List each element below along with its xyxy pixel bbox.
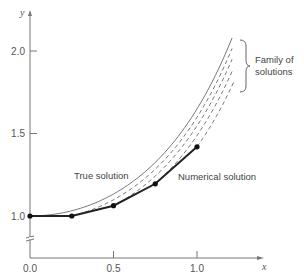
x-ticks: 0.00.51.0 bbox=[23, 251, 204, 274]
x-tick-label: 1.0 bbox=[190, 263, 204, 274]
numerical-point bbox=[111, 203, 116, 208]
axes: y x bbox=[19, 7, 267, 272]
y-axis-arrow bbox=[28, 10, 32, 16]
family-solution-curve bbox=[155, 71, 232, 183]
numerical-point bbox=[153, 181, 158, 186]
numerical-solution-label: Numerical solution bbox=[178, 171, 256, 182]
family-solution-curve bbox=[197, 82, 234, 147]
y-tick-label: 2.0 bbox=[11, 46, 25, 57]
family-solution-curve bbox=[114, 59, 233, 205]
x-axis-label: x bbox=[261, 261, 267, 272]
annotations: True solution Numerical solution Family … bbox=[74, 40, 294, 182]
family-label-line2: solutions bbox=[255, 66, 293, 77]
numerical-point bbox=[69, 213, 74, 218]
x-tick-label: 0.5 bbox=[107, 263, 121, 274]
chart: y x 0.00.51.0 1.01.52.0 True solution Nu… bbox=[0, 0, 304, 280]
y-tick-label: 1.5 bbox=[11, 128, 25, 139]
y-axis-label: y bbox=[19, 7, 25, 18]
true-solution-label: True solution bbox=[74, 170, 129, 181]
x-axis-arrow bbox=[257, 256, 264, 260]
x-tick-label: 0.0 bbox=[23, 263, 37, 274]
curves bbox=[27, 38, 233, 219]
axis-break-icon bbox=[26, 236, 34, 241]
y-ticks: 1.01.52.0 bbox=[11, 46, 37, 222]
numerical-point bbox=[27, 213, 32, 218]
y-tick-label: 1.0 bbox=[11, 211, 25, 222]
numerical-point bbox=[194, 144, 199, 149]
family-label-line1: Family of bbox=[255, 54, 294, 65]
brace-icon bbox=[240, 40, 250, 92]
family-solution-curve bbox=[72, 48, 232, 216]
